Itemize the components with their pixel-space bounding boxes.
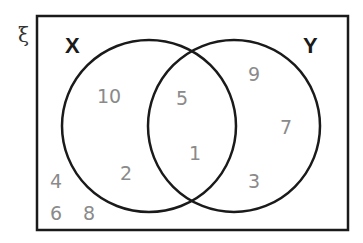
- set-y-label: Y: [303, 33, 318, 58]
- y-only-value-9: 9: [248, 63, 260, 85]
- y-only-value-3: 3: [248, 170, 260, 192]
- intersection-value-1: 1: [189, 142, 201, 164]
- set-y-circle: [148, 40, 320, 212]
- universal-set-rectangle: [37, 16, 348, 230]
- intersection-value-5: 5: [176, 87, 188, 109]
- universal-set-symbol: ξ: [18, 23, 29, 47]
- outside-value-8: 8: [83, 202, 95, 224]
- outside-value-4: 4: [50, 170, 62, 192]
- venn-diagram: ξ X Y 10 2 5 1 9 7 3 4 6 8: [0, 0, 363, 243]
- x-only-value-10: 10: [97, 85, 121, 107]
- x-only-value-2: 2: [120, 162, 132, 184]
- set-x-label: X: [65, 33, 80, 58]
- y-only-value-7: 7: [280, 116, 292, 138]
- outside-value-6: 6: [50, 202, 62, 224]
